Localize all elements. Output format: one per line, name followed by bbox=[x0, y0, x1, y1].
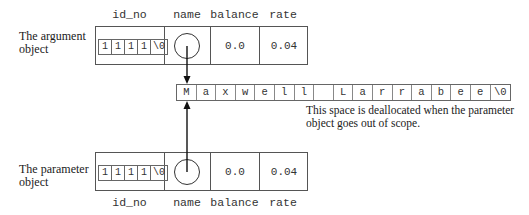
pointer-arrows bbox=[0, 0, 529, 215]
argument-pointer-arrow bbox=[184, 46, 191, 84]
parameter-pointer-arrow bbox=[184, 101, 191, 172]
